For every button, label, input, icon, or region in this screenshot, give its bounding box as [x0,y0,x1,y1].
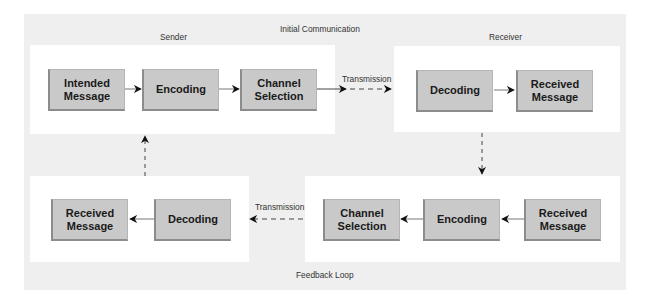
arrows-layer [0,0,648,302]
